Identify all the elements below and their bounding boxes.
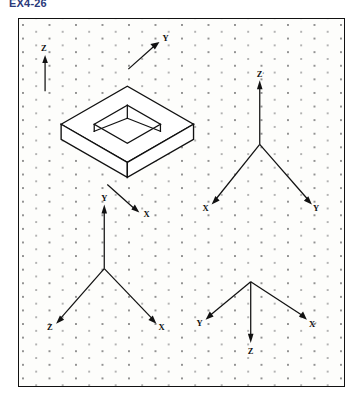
- axis-label-x-prime: Xʹ: [309, 319, 317, 329]
- iso-axis-label-y: Y: [162, 33, 168, 43]
- axis-label-z-prime: Zʹ: [257, 69, 265, 79]
- axes-top-right: Zʹ X Y: [203, 69, 319, 212]
- axis-label-y: Y: [313, 203, 319, 213]
- axis-label-y: Y: [101, 193, 107, 203]
- axis-label-z: Z: [248, 346, 254, 356]
- axes-bottom-right: Z Y Xʹ: [197, 282, 318, 356]
- iso-object-plate-with-hole: [61, 86, 193, 177]
- drawing-frame: Z Y X: [18, 18, 345, 387]
- iso-object-axis-y: Y: [128, 33, 168, 69]
- iso-object-axis-z: Z: [41, 43, 48, 91]
- exercise-sheet: EX4-26: [0, 0, 360, 405]
- axis-label-z: Z: [47, 322, 53, 332]
- axis-label-y: Y: [197, 318, 203, 328]
- iso-object-axis-x: X: [107, 184, 150, 218]
- iso-axis-label-z: Z: [41, 43, 47, 53]
- iso-axis-label-x: X: [143, 209, 150, 219]
- drawing-canvas: Z Y X: [19, 19, 344, 386]
- axis-label-x: X: [203, 203, 210, 213]
- page-title: EX4-26: [9, 0, 47, 9]
- axis-label-x: X: [158, 322, 165, 332]
